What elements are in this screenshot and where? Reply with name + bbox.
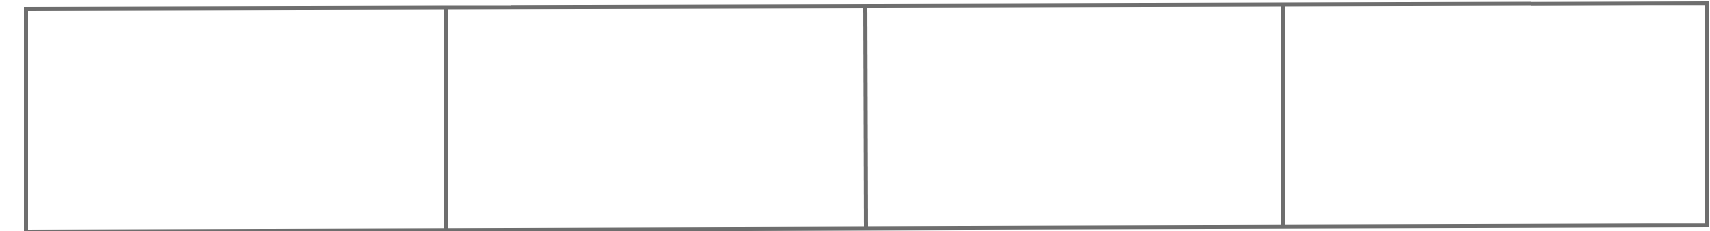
cell-1 bbox=[28, 11, 444, 229]
divider-2 bbox=[865, 6, 866, 229]
segmented-box bbox=[0, 0, 1710, 231]
diagram-canvas bbox=[0, 0, 1710, 231]
cell-2 bbox=[448, 10, 863, 228]
cell-3 bbox=[868, 8, 1281, 226]
cell-4 bbox=[1285, 6, 1705, 224]
